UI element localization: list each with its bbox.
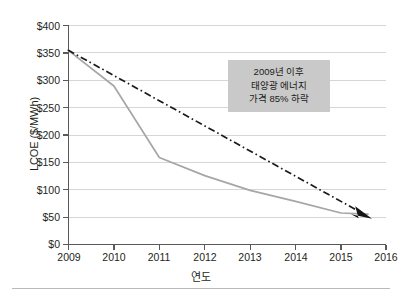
- x-tick-label: 2015: [318, 251, 364, 263]
- x-axis-ticks: [69, 245, 387, 250]
- x-axis-tick-labels: 2009 2010 2011 2012 2013 2014 2015 2016: [0, 251, 402, 267]
- x-tick-label: 2016: [363, 251, 402, 263]
- y-axis-ticks: [63, 26, 68, 245]
- x-axis-title: 연도: [0, 268, 402, 284]
- chart-figure: LCOE ($/MWh) $400 $350 $300 $250 $200 $1…: [0, 0, 402, 305]
- callout-line-3: 가격 85% 하락: [230, 92, 328, 106]
- x-tick-label: 2012: [182, 251, 228, 263]
- gridlines: [68, 26, 386, 218]
- x-tick-label: 2010: [91, 251, 137, 263]
- price-drop-callout: 2009년 이후 태양광 에너지 가격 85% 하락: [228, 60, 330, 112]
- bottom-divider: [12, 288, 390, 289]
- callout-line-1: 2009년 이후: [230, 65, 328, 79]
- x-tick-label: 2009: [46, 251, 92, 263]
- x-tick-label: 2011: [136, 251, 182, 263]
- x-tick-label: 2014: [273, 251, 319, 263]
- callout-line-2: 태양광 에너지: [230, 79, 328, 93]
- x-tick-label: 2013: [227, 251, 273, 263]
